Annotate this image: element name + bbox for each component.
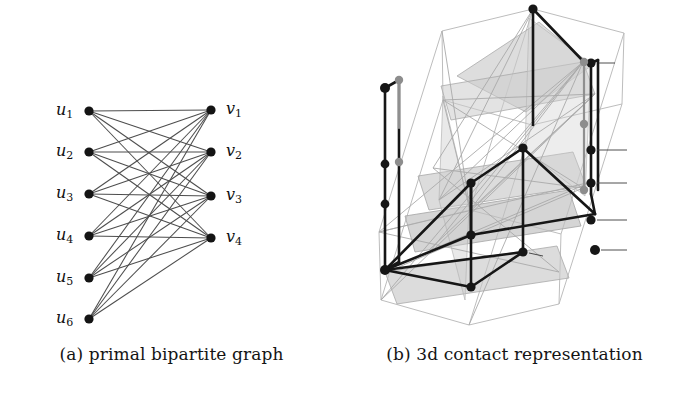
label-u6: u6 (56, 310, 73, 328)
contact-planes (385, 18, 595, 304)
caption-panel-b: (b) 3d contact representation (343, 344, 686, 364)
label-v3: v3 (226, 187, 242, 205)
node-u6 (84, 314, 93, 323)
node-v1 (206, 105, 215, 114)
label-u5: u5 (56, 269, 73, 287)
panel-3d-contact-representation: v3 u6 v2 u5 v4 u4 u3 u1 v1 u2 (b) 3d (343, 0, 686, 397)
node-gray-upper (580, 58, 588, 66)
node-u4-anchor (586, 178, 595, 187)
bipartite-right-nodes (206, 105, 215, 242)
node-v4-top (380, 83, 390, 93)
node-gray-left-mid (395, 158, 403, 166)
label-u4: u4 (56, 227, 73, 245)
node-u4 (84, 231, 93, 240)
node-u5-anchor (586, 145, 595, 154)
node-mid-lower-left (466, 282, 475, 291)
label-v2: v2 (226, 143, 242, 161)
node-gray-low (580, 186, 588, 194)
node-v3 (206, 191, 215, 200)
label-u1: u1 (56, 102, 73, 120)
caption-panel-a: (a) primal bipartite graph (0, 344, 343, 364)
figure-root: u1 u2 u3 u4 u5 u6 v1 v2 v3 v4 (a) primal (0, 0, 686, 397)
panel-primal-bipartite-graph: u1 u2 u3 u4 u5 u6 v1 v2 v3 v4 (a) primal (0, 0, 343, 397)
node-u3 (84, 189, 93, 198)
node-u1 (84, 106, 93, 115)
bipartite-edges (89, 110, 211, 319)
node-gray-left-top (395, 76, 403, 84)
label-u3: u3 (56, 185, 73, 203)
node-u1-anchor (590, 245, 600, 255)
node-u5 (84, 273, 93, 282)
node-v4-bottom (380, 265, 390, 275)
node-mid-upper-right (518, 143, 527, 152)
label-v1: v1 (226, 101, 242, 119)
node-v4-mid (381, 160, 390, 169)
node-v3-top (528, 4, 537, 13)
node-v4 (206, 233, 215, 242)
node-u2 (84, 147, 93, 156)
node-u3-anchor (586, 215, 595, 224)
node-v2 (206, 147, 215, 156)
node-gray-mid (580, 120, 588, 128)
label-v4: v4 (226, 229, 242, 247)
bipartite-left-nodes (84, 106, 93, 323)
node-v4-low (381, 200, 390, 209)
node-mid-left (466, 230, 475, 239)
node-u2-anchor (518, 247, 527, 256)
bipartite-graph-svg (0, 0, 343, 340)
label-u2: u2 (56, 143, 73, 161)
node-mid-upper-left (466, 178, 475, 187)
contact-representation-svg (343, 0, 686, 340)
